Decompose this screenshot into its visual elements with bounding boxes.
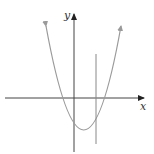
y-axis-label: y xyxy=(63,9,71,22)
parabola-graph: y x xyxy=(0,0,154,154)
parabola-curve xyxy=(46,26,121,130)
x-axis-label: x xyxy=(140,100,147,113)
